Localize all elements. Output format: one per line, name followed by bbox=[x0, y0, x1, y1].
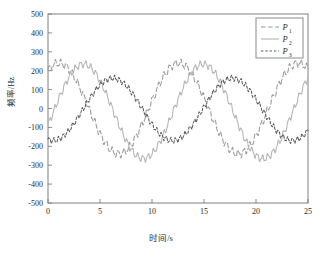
x-tick-label: 15 bbox=[200, 207, 208, 216]
x-tick-label: 25 bbox=[304, 207, 312, 216]
x-tick-label: 5 bbox=[98, 207, 102, 216]
y-tick-label: -200 bbox=[28, 142, 43, 151]
chart-legend: P1P2P3 bbox=[256, 18, 303, 58]
legend-subscript-P1: 1 bbox=[289, 28, 292, 34]
y-tick-label: 400 bbox=[31, 29, 43, 38]
legend-label-P1: P bbox=[282, 22, 288, 32]
y-tick-label: -100 bbox=[28, 123, 43, 132]
y-tick-label: -500 bbox=[28, 199, 43, 208]
y-tick-label: -300 bbox=[28, 161, 43, 170]
legend-label-P2: P bbox=[282, 34, 288, 44]
y-tick-label: 200 bbox=[31, 67, 43, 76]
x-tick-label: 10 bbox=[148, 207, 156, 216]
y-tick-label: 0 bbox=[39, 105, 43, 114]
legend-box bbox=[256, 18, 303, 58]
y-tick-label: 300 bbox=[31, 48, 43, 57]
chart-canvas: -500-400-300-200-1000100200300400500 051… bbox=[0, 0, 322, 258]
y-tick-label: 500 bbox=[31, 10, 43, 19]
y-tick-label: 100 bbox=[31, 86, 43, 95]
legend-subscript-P3: 3 bbox=[289, 52, 292, 58]
x-tick-label: 20 bbox=[252, 207, 260, 216]
legend-label-P3: P bbox=[282, 46, 288, 56]
chart-figure: 频率/Hz 时间/s -500-400-300-200-100010020030… bbox=[0, 0, 322, 258]
x-tick-label: 0 bbox=[46, 207, 50, 216]
y-tick-label: -400 bbox=[28, 180, 43, 189]
legend-subscript-P2: 2 bbox=[289, 40, 292, 46]
